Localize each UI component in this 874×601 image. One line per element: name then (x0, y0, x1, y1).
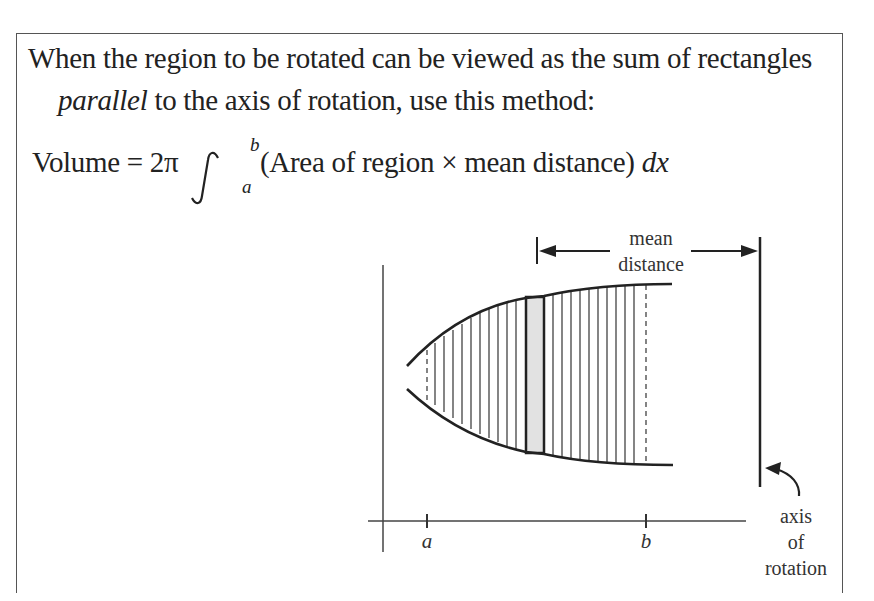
arrow-right-icon (741, 245, 758, 257)
mean-distance-label-1: mean (629, 227, 672, 249)
axis-label-2: of (788, 531, 805, 553)
curved-arrow-icon (765, 462, 781, 475)
tick-label-b: b (641, 529, 652, 553)
axis-label-3: rotation (765, 557, 827, 579)
mean-distance-label-2: distance (618, 253, 684, 275)
axis-label-1: axis (780, 505, 812, 527)
arrow-left-icon (539, 245, 556, 257)
tick-label-a: a (422, 529, 433, 553)
integral-sign-icon (192, 153, 218, 203)
shell-method-diagram: mean distance axis of rotation a b (0, 0, 874, 601)
axis-pointer-curve (776, 469, 799, 496)
representative-rectangle (526, 297, 544, 453)
